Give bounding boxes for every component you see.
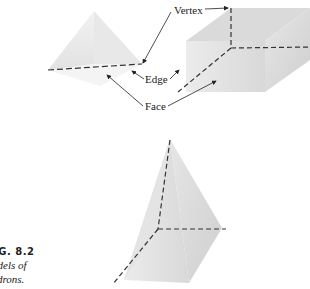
square-pyramid [113, 139, 226, 284]
caption-line-1: odels of [0, 259, 27, 271]
edge-label: Edge [145, 74, 168, 85]
face-label: Face [145, 101, 166, 112]
rectangular-prism [178, 8, 310, 92]
figure-number: IG. 8.2 [0, 246, 34, 257]
vertex-label: Vertex [174, 5, 203, 16]
caption-line-2: edrons. [0, 273, 24, 285]
polyhedra-figure: Vertex Edge Face IG. 8.2 odels of edrons… [0, 0, 310, 289]
polyhedra-diagram [0, 0, 310, 289]
triangular-pyramid [48, 11, 142, 86]
